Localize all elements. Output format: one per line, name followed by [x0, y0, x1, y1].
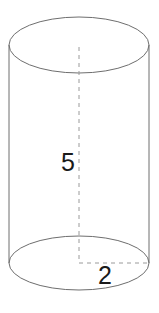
cylinder-diagram: 5 2 — [0, 0, 159, 313]
radius-label: 2 — [98, 261, 112, 289]
cylinder-figure: 5 2 — [0, 0, 159, 313]
height-label: 5 — [61, 148, 75, 176]
